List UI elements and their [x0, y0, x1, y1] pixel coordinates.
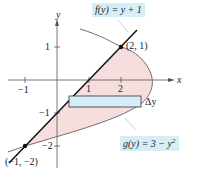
- g-label: g(y) = 3 − y2: [120, 136, 179, 151]
- point-2-1: [119, 45, 123, 49]
- f-label-text: f(y) = y + 1: [95, 4, 142, 15]
- x-tick-label-neg1: −1: [18, 85, 29, 95]
- representative-rectangle: [69, 96, 141, 107]
- point-label-neg1-neg2: (−1, −2): [5, 157, 38, 167]
- y-tick-label-neg1: −1: [39, 108, 50, 118]
- g-label-text: g(y) = 3 − y: [123, 138, 172, 149]
- point-label-2-1: (2, 1): [126, 41, 148, 51]
- y-tick-label-neg2: −2: [42, 141, 53, 151]
- x-tick-label-1: 1: [86, 84, 91, 94]
- point-neg1-neg2: [23, 144, 27, 148]
- y-axis-arrow: [55, 19, 59, 26]
- f-label: f(y) = y + 1: [92, 3, 145, 17]
- leader-line-f: [118, 20, 128, 32]
- delta-y-label: Δy: [145, 97, 156, 107]
- x-axis-arrow: [168, 78, 175, 82]
- g-label-sup: 2: [172, 137, 176, 145]
- y-tick-label-1: 1: [45, 42, 50, 52]
- x-tick-label-2: 2: [118, 84, 123, 94]
- x-axis-label: x: [177, 75, 181, 85]
- y-axis-label: y: [56, 10, 60, 20]
- leader-line-g: [125, 118, 136, 130]
